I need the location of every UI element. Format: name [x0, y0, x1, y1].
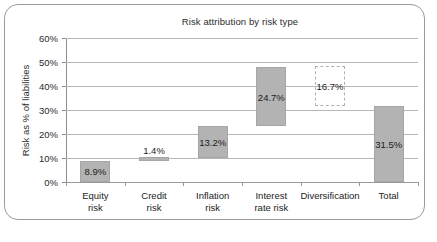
x-axis-label-line: Interest — [254, 190, 288, 202]
y-axis-tick-labels: 60%50%40%30%20%10%0% — [28, 0, 58, 242]
bar-credit-risk — [139, 157, 169, 160]
bar-value-label: 13.2% — [199, 137, 226, 148]
x-axis-category-label: Diversification — [300, 190, 359, 202]
x-axis-label-line: risk — [141, 202, 166, 214]
x-axis-label-line: Inflation — [196, 190, 229, 202]
x-axis-tick-mark — [359, 182, 360, 186]
gridline — [66, 86, 418, 87]
y-axis-tick-label: 60% — [28, 33, 58, 44]
y-axis-tick-label: 20% — [28, 129, 58, 140]
x-axis-label-line: Diversification — [300, 190, 359, 202]
y-axis-tick-label: 10% — [28, 153, 58, 164]
bar-value-label: 31.5% — [375, 139, 402, 150]
x-axis-category-label: Creditrisk — [141, 190, 166, 213]
y-axis-tick-label: 50% — [28, 57, 58, 68]
x-axis-category-label: Equityrisk — [82, 190, 108, 213]
x-axis-tick-mark — [66, 182, 67, 186]
gridline — [66, 62, 418, 63]
x-axis-category-label: Total — [379, 190, 399, 202]
x-axis-label-line: Equity — [82, 190, 108, 202]
bar-value-label: 16.7% — [317, 81, 344, 92]
y-axis-tick-mark — [62, 38, 66, 39]
y-axis-tick-mark — [62, 62, 66, 63]
y-axis-tick-mark — [62, 158, 66, 159]
y-axis-tick-label: 30% — [28, 105, 58, 116]
gridline — [66, 158, 418, 159]
y-axis-tick-label: 0% — [28, 177, 58, 188]
x-axis-label-line: risk — [82, 202, 108, 214]
y-axis-tick-mark — [62, 110, 66, 111]
x-axis-tick-mark — [125, 182, 126, 186]
x-axis-category-label: Interestrate risk — [254, 190, 288, 213]
x-axis-tick-mark — [418, 182, 419, 186]
x-axis-category-label: Inflationrisk — [196, 190, 229, 213]
plot-area: 8.9%1.4%13.2%24.7%16.7%31.5% — [66, 38, 418, 182]
bar-value-label: 24.7% — [258, 91, 285, 102]
x-axis-tick-mark — [301, 182, 302, 186]
x-axis-tick-mark — [183, 182, 184, 186]
y-axis-tick-mark — [62, 86, 66, 87]
x-axis-tick-mark — [242, 182, 243, 186]
chart-title: Risk attribution by risk type — [70, 16, 410, 27]
x-axis-label-line: Total — [379, 190, 399, 202]
bar-value-label: 8.9% — [85, 166, 107, 177]
x-axis-label-line: risk — [196, 202, 229, 214]
y-axis-tick-label: 40% — [28, 81, 58, 92]
x-axis-label-line: Credit — [141, 190, 166, 202]
y-axis-tick-mark — [62, 134, 66, 135]
gridline — [66, 110, 418, 111]
bar-value-label: 1.4% — [143, 145, 165, 156]
gridline — [66, 38, 418, 39]
x-axis-label-line: rate risk — [254, 202, 288, 214]
gridline — [66, 134, 418, 135]
